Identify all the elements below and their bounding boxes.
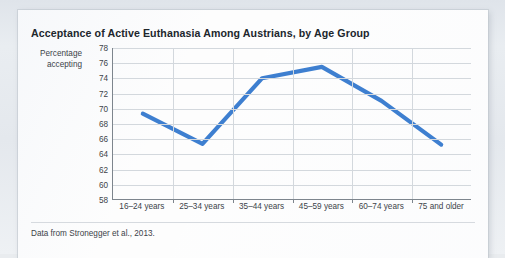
x-tick-label: 35–44 years bbox=[239, 202, 284, 211]
y-tick-label: 78 bbox=[99, 44, 108, 53]
gridline-vertical bbox=[293, 48, 294, 199]
x-tick-label: 60–74 years bbox=[359, 202, 404, 211]
plot-area-wrapper: 7876747270686664626058 16–24 years25–34 … bbox=[86, 48, 471, 216]
x-tick-label: 25–34 years bbox=[179, 202, 224, 211]
x-tick-label: 16–24 years bbox=[119, 202, 164, 211]
y-tick-label: 60 bbox=[99, 180, 108, 189]
source-divider bbox=[31, 222, 475, 223]
y-tick-label: 76 bbox=[99, 59, 108, 68]
x-axis-ticks: 16–24 years25–34 years35–44 years45–59 y… bbox=[112, 202, 471, 216]
y-axis-label-line-2: accepting bbox=[20, 60, 82, 71]
figure-card: Acceptance of Active Euthanasia Among Au… bbox=[18, 10, 488, 258]
y-tick-label: 58 bbox=[99, 196, 108, 205]
y-axis-label: Percentage accepting bbox=[20, 49, 82, 70]
gridline-vertical bbox=[352, 48, 353, 199]
y-axis-label-line-1: Percentage bbox=[20, 49, 82, 60]
plot-area bbox=[112, 48, 471, 200]
y-tick-label: 74 bbox=[99, 74, 108, 83]
x-tick-label: 75 and older bbox=[418, 202, 464, 211]
y-tick-label: 64 bbox=[99, 150, 108, 159]
source-note: Data from Stronegger et al., 2013. bbox=[31, 229, 155, 238]
y-tick-label: 66 bbox=[99, 135, 108, 144]
y-tick-label: 72 bbox=[99, 89, 108, 98]
y-tick-label: 62 bbox=[99, 165, 108, 174]
y-tick-label: 70 bbox=[99, 104, 108, 113]
gridline-vertical bbox=[173, 48, 174, 199]
y-axis-ticks: 7876747270686664626058 bbox=[86, 48, 108, 200]
x-tick-label: 45–59 years bbox=[299, 202, 344, 211]
chart-title: Acceptance of Active Euthanasia Among Au… bbox=[31, 27, 370, 39]
y-tick-label: 68 bbox=[99, 120, 108, 129]
gridline-vertical bbox=[233, 48, 234, 199]
gridline-vertical bbox=[412, 48, 413, 199]
